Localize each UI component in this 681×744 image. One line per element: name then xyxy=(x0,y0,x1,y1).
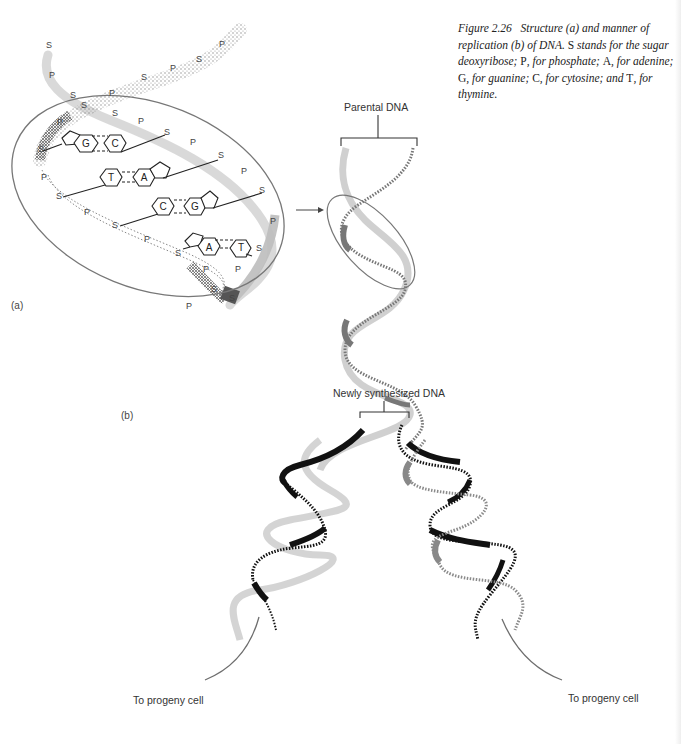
phosphate-label: P xyxy=(170,63,176,73)
figure-number: Figure 2.26 xyxy=(458,22,512,34)
dna-replication-figure: G C T A C G A T SPSPSSPPSPSPSPSPSPSPSPSP… xyxy=(0,0,681,744)
phosphate-label: P xyxy=(144,234,150,244)
sugar-label: S xyxy=(256,243,262,253)
sugar-label: S xyxy=(38,144,44,154)
base-g1: G xyxy=(82,138,90,149)
phosphate-label: P xyxy=(270,216,276,226)
figure-caption: Figure 2.26 Structure (a) and manner of … xyxy=(458,20,678,103)
base-a4: A xyxy=(206,242,213,253)
sugar-label: S xyxy=(229,293,235,303)
right-daughter-helix xyxy=(399,425,523,640)
left-daughter-helix xyxy=(233,430,363,640)
phosphate-label: P xyxy=(41,172,47,182)
sugar-label: S xyxy=(196,54,202,64)
phosphate-label: P xyxy=(235,264,241,274)
base-c1: C xyxy=(111,138,118,149)
sugar-label: S xyxy=(112,108,118,118)
sugar-label: S xyxy=(141,72,147,82)
sugar-label: S xyxy=(175,248,181,258)
sugar-label: S xyxy=(259,185,265,195)
phosphate-label: P xyxy=(241,166,247,176)
base-t2: T xyxy=(108,172,114,183)
diagram-canvas: G C T A C G A T SPSPSSPPSPSPSPSPSPSPSPSP… xyxy=(0,0,681,744)
sugar-label: S xyxy=(211,284,217,294)
sugar-label: S xyxy=(56,191,62,201)
progeny-cell-label-left: To progeny cell xyxy=(133,694,204,706)
phosphate-label: P xyxy=(138,116,144,126)
sugar-label: S xyxy=(164,127,170,137)
base-g3: G xyxy=(191,201,199,212)
base-t4: T xyxy=(238,242,244,253)
sugar-label: S xyxy=(81,100,87,110)
sugar-label: S xyxy=(112,220,118,230)
zoom-ellipse xyxy=(0,58,314,335)
phosphate-label: P xyxy=(84,207,90,217)
panel-label-a: (a) xyxy=(11,300,23,311)
parental-bracket xyxy=(341,115,417,146)
progeny-arrow-left xyxy=(205,617,259,680)
phosphate-label: P xyxy=(203,264,209,274)
progeny-arrow-right xyxy=(502,619,562,680)
parental-dna-label: Parental DNA xyxy=(344,101,408,113)
newly-synthesized-dna-label: Newly synthesized DNA xyxy=(333,387,445,399)
phosphate-label: P xyxy=(190,137,196,147)
panel-label-b: (b) xyxy=(121,410,133,421)
sugar-label: S xyxy=(218,150,224,160)
sugar-label: S xyxy=(46,40,52,50)
arrowhead-icon xyxy=(318,207,324,213)
page-edge-shadow xyxy=(675,0,681,744)
sugar-label: S xyxy=(70,90,76,100)
phosphate-label: P xyxy=(186,301,192,311)
phosphate-label: P xyxy=(57,117,63,127)
small-zoom-ellipse xyxy=(312,181,430,303)
phosphate-label: P xyxy=(49,70,55,80)
base-a2: A xyxy=(141,172,148,183)
progeny-cell-label-right: To progeny cell xyxy=(568,692,639,704)
base-pairs xyxy=(43,131,262,257)
base-c3: C xyxy=(159,201,166,212)
phosphate-label: P xyxy=(109,88,115,98)
phosphate-label: P xyxy=(219,39,225,49)
